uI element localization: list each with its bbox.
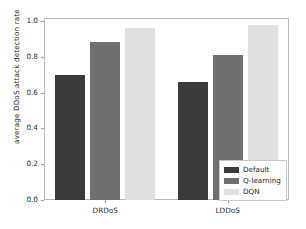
legend-swatch-icon [224,167,239,173]
y-tick-label: 0.4 [26,123,38,132]
y-tick: 0.0 [0,200,44,201]
legend-swatch-icon [224,178,239,184]
x-tick-label: LDDoS [188,206,268,215]
y-tick-label: 0.0 [26,195,38,204]
y-tick: 0.6 [0,93,44,94]
bar-default-drdos [55,75,85,200]
y-tick-mark [41,164,44,165]
y-tick-mark [41,200,44,201]
y-tick-label: 0.8 [26,52,38,61]
y-tick: 0.8 [0,57,44,58]
x-tick-label: DRDoS [65,206,145,215]
bar-q-learning-drdos [90,42,120,200]
y-tick: 0.2 [0,164,44,165]
y-tick-label: 0.2 [26,159,38,168]
legend-item-q-learning[interactable]: Q-learning [224,175,282,186]
y-tick-mark [41,57,44,58]
bar-default-lddos [178,82,208,200]
y-tick-label: 1.0 [26,16,38,25]
y-tick-mark [41,21,44,22]
legend-swatch-icon [224,189,239,195]
y-axis-label: average DDoS attack detection rate [12,0,21,177]
legend-label: Default [243,165,269,174]
bar-dqn-drdos [125,28,155,200]
legend: DefaultQ-learningDQN [219,160,287,201]
bar-chart-figure: average DDoS attack detection rate 0.00.… [0,0,306,229]
x-tick-mark [105,200,106,203]
y-tick: 1.0 [0,21,44,22]
y-tick-mark [41,93,44,94]
legend-label: DQN [243,187,260,196]
legend-item-dqn[interactable]: DQN [224,186,282,197]
y-tick-label: 0.6 [26,88,38,97]
legend-item-default[interactable]: Default [224,164,282,175]
y-tick-mark [41,128,44,129]
y-tick: 0.4 [0,128,44,129]
legend-label: Q-learning [243,176,281,185]
